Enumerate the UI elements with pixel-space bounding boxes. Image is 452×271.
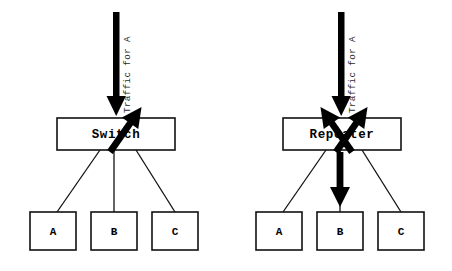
host-label-b-switch: B — [111, 226, 118, 238]
traffic-label-switch: Traffic for A — [122, 36, 133, 113]
host-label-c-switch: C — [172, 226, 179, 238]
host-label-c-repeater: C — [398, 226, 405, 238]
repeater-panel: Traffic for A Repeater — [256, 12, 424, 250]
link-repeater-to-c — [362, 150, 401, 212]
host-label-a-repeater: A — [276, 226, 283, 238]
host-label-a-switch: A — [50, 226, 57, 238]
network-comparison-diagram: Traffic for A Switch A B — [0, 0, 452, 271]
link-switch-to-c — [136, 150, 175, 212]
host-box-c-switch: C — [152, 212, 198, 250]
link-repeater-to-a — [283, 150, 326, 212]
traffic-label-repeater: Traffic for A — [347, 36, 358, 113]
switch-panel: Traffic for A Switch A B — [30, 12, 198, 250]
host-box-a-repeater: A — [256, 212, 302, 250]
host-box-c-repeater: C — [378, 212, 424, 250]
host-box-b-repeater: B — [317, 212, 363, 250]
host-box-b-switch: B — [91, 212, 137, 250]
traffic-arrow-repeater-to-b — [330, 152, 350, 207]
host-label-b-repeater: B — [337, 226, 344, 238]
link-switch-to-a — [57, 150, 100, 212]
host-box-a-switch: A — [30, 212, 76, 250]
